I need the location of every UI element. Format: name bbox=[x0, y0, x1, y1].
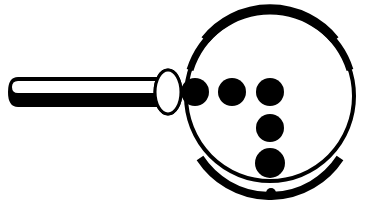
dot-4 bbox=[256, 114, 284, 142]
handle bbox=[8, 77, 165, 107]
magnifying-glass-icon bbox=[0, 0, 383, 200]
small-dot bbox=[266, 188, 276, 198]
magnifying-glass-figure bbox=[0, 0, 383, 200]
dot-3 bbox=[256, 78, 284, 106]
dot-5 bbox=[255, 148, 285, 178]
dot-1 bbox=[181, 78, 209, 106]
dot-2 bbox=[218, 78, 246, 106]
